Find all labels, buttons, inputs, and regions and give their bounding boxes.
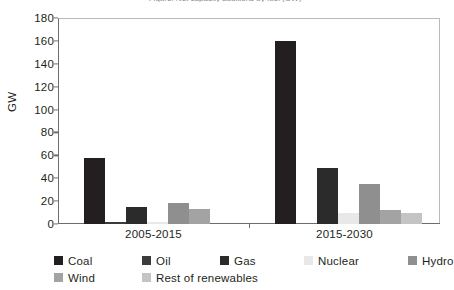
bar — [380, 210, 401, 224]
y-tick-mark — [54, 63, 58, 64]
x-axis-category-label: 2015-2030 — [249, 228, 440, 240]
bar — [317, 168, 338, 224]
legend-swatch-icon — [220, 256, 229, 265]
legend-item[interactable]: Gas — [220, 255, 256, 267]
y-tick-label: 100 — [34, 104, 54, 116]
legend-item[interactable]: Nuclear — [304, 255, 359, 267]
y-tick-mark — [54, 17, 58, 18]
legend-label: Gas — [234, 255, 256, 267]
plot-frame — [58, 18, 440, 224]
legend-label: Hydro — [422, 255, 454, 267]
y-tick-label: 140 — [34, 58, 54, 70]
bar — [84, 158, 105, 224]
legend-swatch-icon — [408, 256, 417, 265]
chart-title: Figure: Net capacity additions by fuel (… — [0, 0, 450, 2]
chart-legend: CoalOilGasNuclearHydroWindRest of renewa… — [54, 252, 450, 286]
legend-label: Wind — [68, 272, 95, 284]
y-tick-label: 40 — [41, 172, 54, 184]
legend-swatch-icon — [304, 256, 313, 265]
y-axis-label: GW — [6, 92, 18, 112]
legend-label: Nuclear — [318, 255, 359, 267]
legend-item[interactable]: Hydro — [408, 255, 454, 267]
legend-label: Oil — [156, 255, 171, 267]
bar — [189, 209, 210, 224]
y-tick-mark — [54, 132, 58, 133]
bar — [168, 203, 189, 224]
y-tick-mark — [54, 223, 58, 224]
legend-swatch-icon — [54, 256, 63, 265]
bar — [105, 222, 126, 224]
legend-item[interactable]: Coal — [54, 255, 92, 267]
bar — [275, 41, 296, 224]
legend-swatch-icon — [142, 256, 151, 265]
x-axis-category-label: 2005-2015 — [58, 228, 249, 240]
bar — [359, 184, 380, 224]
legend-item[interactable]: Wind — [54, 272, 95, 284]
bar — [338, 213, 359, 224]
legend-label: Rest of renewables — [156, 272, 258, 284]
bar — [401, 213, 422, 224]
legend-item[interactable]: Rest of renewables — [142, 272, 258, 284]
legend-swatch-icon — [142, 273, 151, 282]
y-tick-label: 120 — [34, 81, 54, 93]
legend-swatch-icon — [54, 273, 63, 282]
y-tick-mark — [54, 201, 58, 202]
legend-row: CoalOilGasNuclearHydro — [54, 252, 450, 269]
legend-row: WindRest of renewables — [54, 269, 450, 286]
legend-item[interactable]: Oil — [142, 255, 171, 267]
y-tick-label: 160 — [34, 35, 54, 47]
y-tick-mark — [54, 40, 58, 41]
y-tick-mark — [54, 86, 58, 87]
y-tick-label: 60 — [41, 149, 54, 161]
y-tick-label: 0 — [47, 218, 54, 230]
y-tick-label: 80 — [41, 126, 54, 138]
plot-area: 180160140120100806040200 2005-20152015-2… — [58, 18, 440, 224]
bar — [147, 222, 168, 224]
y-tick-mark — [54, 109, 58, 110]
y-tick-label: 20 — [41, 195, 54, 207]
y-tick-mark — [54, 155, 58, 156]
y-tick-label: 180 — [34, 12, 54, 24]
y-tick-mark — [54, 178, 58, 179]
x-axis-group-separator — [249, 224, 250, 228]
bar — [126, 207, 147, 224]
legend-label: Coal — [68, 255, 92, 267]
